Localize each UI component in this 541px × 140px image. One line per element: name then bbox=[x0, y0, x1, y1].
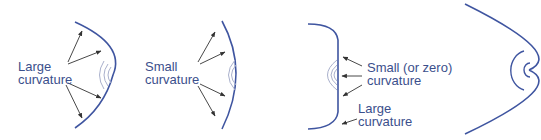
panel-large-curvature: Large curvature bbox=[18, 22, 116, 128]
label-small-or-zero-curvature: Small (or zero) curvature bbox=[367, 60, 456, 88]
panel-parabola bbox=[465, 4, 539, 134]
label-large-curvature-corner: Large curvature bbox=[358, 101, 412, 129]
panel-small-curvature: Small curvature bbox=[145, 21, 236, 129]
arrows bbox=[198, 32, 225, 116]
label-small-curvature: Small curvature bbox=[145, 59, 199, 87]
panel-flat-surface: Small (or zero) curvature Large curvatur… bbox=[308, 24, 456, 129]
curve-large bbox=[75, 22, 116, 128]
label-large-curvature: Large curvature bbox=[18, 59, 72, 87]
osculating-circle-large bbox=[511, 51, 524, 90]
curvature-diagram: Large curvature Small curvature bbox=[0, 0, 541, 140]
curve-parabola bbox=[465, 4, 539, 134]
faint-arcs bbox=[328, 60, 338, 90]
curve-flat bbox=[308, 24, 338, 129]
